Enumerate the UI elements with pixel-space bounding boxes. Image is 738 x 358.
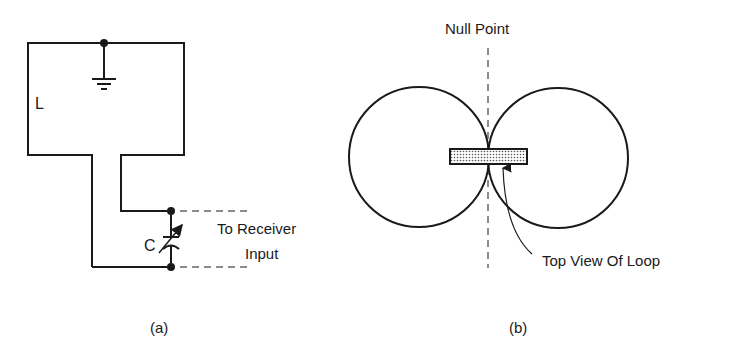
junction-dot-lower [167, 263, 175, 271]
panel-b-caption: (b) [509, 319, 527, 336]
loop-label: Top View Of Loop [542, 252, 660, 269]
panel-a-caption: (a) [150, 319, 168, 336]
junction-dot-upper [167, 207, 175, 215]
loop-antenna-figure: L C To Receiver Input (a) Null Point Top… [0, 0, 738, 358]
panel-b-pattern: Null Point Top View Of Loop (b) [349, 20, 660, 336]
loop-pointer-arrow [503, 168, 532, 254]
loop-inductor-wire [28, 43, 184, 267]
ground-icon [92, 43, 116, 89]
output-label-line1: To Receiver [217, 220, 296, 237]
output-label-line2: Input [245, 245, 279, 262]
variable-capacitor-icon [159, 211, 182, 267]
inductor-label: L [35, 95, 44, 112]
loop-top-view [450, 149, 527, 164]
panel-a-circuit: L C To Receiver Input (a) [28, 39, 296, 336]
capacitor-label: C [144, 237, 156, 254]
null-point-label: Null Point [445, 20, 510, 37]
